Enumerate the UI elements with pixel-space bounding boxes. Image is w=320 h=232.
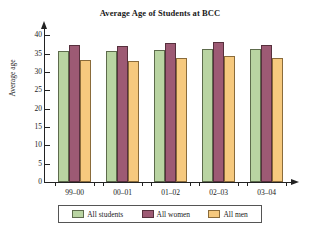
- x-tick-label: 02–03: [209, 188, 228, 197]
- x-tick-label: 00–01: [113, 188, 132, 197]
- y-axis-arrow-icon: [41, 21, 47, 29]
- legend-item-all-women[interactable]: All women: [142, 210, 191, 219]
- y-axis-label: Average age: [8, 59, 17, 96]
- bar[interactable]: [213, 42, 224, 182]
- legend-swatch-icon-all-students: [72, 210, 84, 218]
- bar-chart: Average Age of Students at BCC Average a…: [0, 0, 320, 232]
- x-tick-label: 01–02: [161, 188, 180, 197]
- x-tick-mark: [190, 182, 191, 186]
- x-tick-mark: [103, 182, 104, 186]
- chart-title: Average Age of Students at BCC: [0, 8, 320, 18]
- y-axis-line: [44, 28, 45, 183]
- bar[interactable]: [261, 45, 272, 182]
- x-tick-label: 99–00: [65, 188, 84, 197]
- bar[interactable]: [106, 51, 117, 182]
- y-tick-label: 20: [35, 105, 43, 113]
- y-tick-mark: [45, 127, 50, 128]
- x-tick-mark: [238, 182, 239, 186]
- legend-swatch-icon-all-women: [142, 210, 154, 218]
- y-tick-mark: [45, 90, 50, 91]
- x-tick-mark: [286, 182, 287, 186]
- x-tick-mark: [151, 182, 152, 186]
- y-tick-mark: [45, 182, 50, 183]
- y-tick-mark: [45, 72, 50, 73]
- bar-set: [58, 28, 91, 182]
- bar[interactable]: [58, 51, 69, 182]
- x-tick-label: 03–04: [257, 188, 276, 197]
- bar[interactable]: [224, 56, 235, 182]
- bar[interactable]: [165, 43, 176, 182]
- y-tick-label: 10: [35, 142, 43, 150]
- bar[interactable]: [80, 60, 91, 182]
- x-tick-mark: [94, 182, 95, 186]
- bar-set: [106, 28, 139, 182]
- y-tick-label: 40: [35, 32, 43, 40]
- y-tick-mark: [45, 54, 50, 55]
- x-axis-arrow-icon: [291, 179, 299, 185]
- bar-set: [250, 28, 283, 182]
- legend-label-all-women: All women: [157, 210, 191, 219]
- bar[interactable]: [117, 46, 128, 182]
- legend-swatch-icon-all-men: [208, 210, 220, 218]
- y-tick-mark: [45, 35, 50, 36]
- y-tick-mark: [45, 164, 50, 165]
- bar[interactable]: [128, 61, 139, 182]
- chart-legend: All students All women All men: [58, 205, 262, 223]
- y-tick-label: 35: [35, 50, 43, 58]
- bar[interactable]: [176, 58, 187, 182]
- legend-label-all-students: All students: [87, 210, 123, 219]
- legend-item-all-students[interactable]: All students: [72, 210, 123, 219]
- y-tick-label: 0: [38, 178, 42, 186]
- x-tick-mark: [142, 182, 143, 186]
- legend-item-all-men[interactable]: All men: [208, 210, 247, 219]
- y-tick-mark: [45, 145, 50, 146]
- bar[interactable]: [154, 50, 165, 182]
- y-tick-label: 5: [38, 160, 42, 168]
- y-tick-label: 15: [35, 123, 43, 131]
- x-tick-mark: [199, 182, 200, 186]
- bar-set: [202, 28, 235, 182]
- x-axis-line: [44, 182, 292, 183]
- bar[interactable]: [69, 45, 80, 182]
- plot-area: 0510152025303540 99–0000–0101–0202–0303–…: [44, 28, 300, 183]
- x-tick-mark: [247, 182, 248, 186]
- bar-set: [154, 28, 187, 182]
- bar[interactable]: [272, 58, 283, 182]
- legend-label-all-men: All men: [223, 210, 247, 219]
- x-tick-mark: [55, 182, 56, 186]
- bar[interactable]: [250, 49, 261, 182]
- y-tick-mark: [45, 109, 50, 110]
- bar[interactable]: [202, 49, 213, 182]
- y-tick-label: 30: [35, 68, 43, 76]
- y-tick-label: 25: [35, 87, 43, 95]
